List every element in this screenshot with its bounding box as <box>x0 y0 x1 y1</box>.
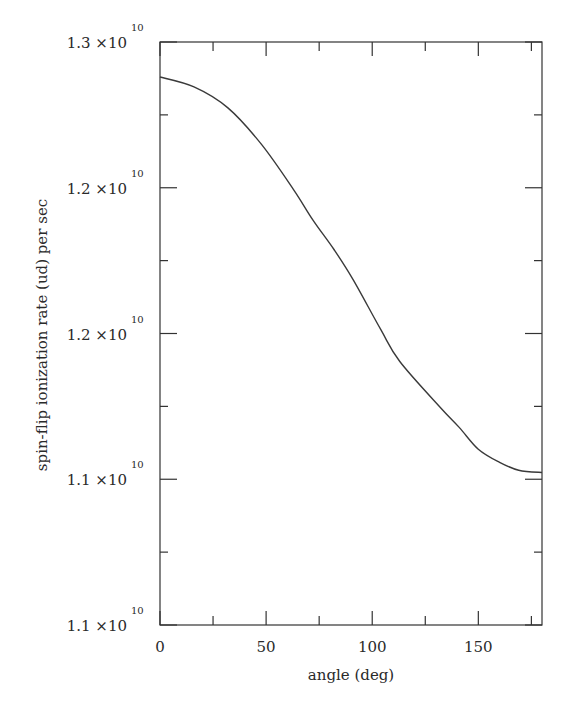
y-axis-label: spin-flip ionization rate (ud) per sec <box>33 199 51 471</box>
y-tick-exponent: 10 <box>131 314 144 325</box>
x-tick-label: 150 <box>464 638 493 656</box>
y-tick-exponent: 10 <box>131 168 144 179</box>
x-axis-ticks: 050100150 <box>155 42 531 656</box>
y-tick-label: 1.3 ×10 <box>67 34 127 52</box>
line-chart: 050100150 1.3 ×10101.2 ×10101.2 ×10101.1… <box>0 0 570 711</box>
x-tick-label: 100 <box>358 638 387 656</box>
plot-area <box>160 42 542 625</box>
y-tick-label: 1.2 ×10 <box>67 326 127 344</box>
y-tick-exponent: 10 <box>131 459 144 470</box>
y-tick-label: 1.1 ×10 <box>67 471 127 489</box>
y-tick-label: 1.2 ×10 <box>67 180 127 198</box>
y-tick-exponent: 10 <box>131 605 144 616</box>
y-axis-ticks: 1.3 ×10101.2 ×10101.2 ×10101.1 ×10101.1 … <box>67 22 542 635</box>
data-series <box>160 77 542 473</box>
x-tick-label: 50 <box>257 638 276 656</box>
y-tick-exponent: 10 <box>131 22 144 33</box>
rate-curve <box>160 77 542 473</box>
x-axis-label: angle (deg) <box>308 666 394 684</box>
x-tick-label: 0 <box>155 638 165 656</box>
y-tick-label: 1.1 ×10 <box>67 617 127 635</box>
plot-frame <box>160 42 542 625</box>
